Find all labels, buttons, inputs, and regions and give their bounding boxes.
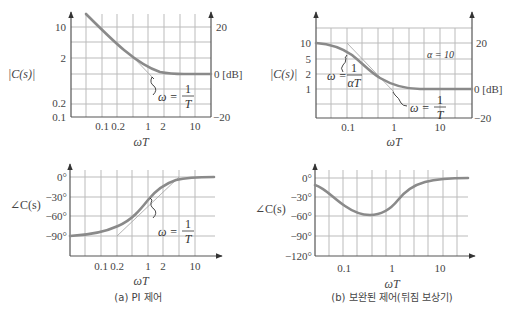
ytick: −120° xyxy=(285,250,312,262)
phase-curve xyxy=(70,177,214,236)
xtick: 0.2 xyxy=(111,120,125,132)
grid xyxy=(315,170,468,256)
svg-text:T: T xyxy=(437,108,445,122)
phase-ylabel: ∠C(s) xyxy=(255,202,286,216)
magnitude-ylabel: |C(s)| xyxy=(270,67,297,81)
annotation-leader xyxy=(151,77,156,95)
ytick-db: 20 xyxy=(216,21,228,33)
xtick: 1 xyxy=(389,262,395,274)
xtick: 2 xyxy=(160,120,166,132)
ytick: −60° xyxy=(45,210,67,222)
svg-text:1: 1 xyxy=(351,61,357,75)
xtick: 2 xyxy=(160,260,166,272)
xtick: 10 xyxy=(190,260,202,272)
xtick: 0.2 xyxy=(110,260,124,272)
ytick-db: −20 xyxy=(474,112,492,124)
ytick: −30° xyxy=(45,191,67,203)
panel-b-magnitude-plot xyxy=(316,12,472,118)
svg-text:T: T xyxy=(185,232,193,246)
ytick: −30° xyxy=(290,191,312,203)
ytick: 0.1 xyxy=(52,111,66,123)
svg-text:1: 1 xyxy=(437,93,443,107)
ytick-db: 20 xyxy=(476,37,488,49)
ytick: −60° xyxy=(290,210,312,222)
ytick-db: 0 [dB] xyxy=(214,68,242,80)
svg-text:1: 1 xyxy=(185,82,191,96)
ytick-db: −20 xyxy=(213,111,231,123)
xtick: 0.1 xyxy=(95,120,109,132)
magnitude-xlabel: ωT xyxy=(133,135,149,149)
annotation-corner-frequency-1: ω = 1 αT xyxy=(327,61,362,90)
svg-text:ω =: ω = xyxy=(158,90,178,104)
phase-ylabel: ∠C(s) xyxy=(10,198,41,212)
alpha-parameter: α = 10 xyxy=(427,49,454,60)
caption-b: (b) 보완된 제어(뒤짐 보상기) xyxy=(331,292,453,303)
xtick: 10 xyxy=(435,262,447,274)
panel-b-phase-plot xyxy=(315,164,475,256)
xtick: 0.1 xyxy=(337,262,351,274)
ytick: 2 xyxy=(306,68,312,80)
ytick: 2 xyxy=(61,52,67,64)
svg-text:αT: αT xyxy=(348,76,362,90)
figure-canvas: |C(s)| 10 2 0.2 0.1 20 0 [dB] −20 0.1 0.… xyxy=(0,0,508,318)
ytick: 10 xyxy=(55,21,67,33)
svg-text:ω =: ω = xyxy=(327,69,347,83)
xtick: 10 xyxy=(190,120,202,132)
svg-text:ω =: ω = xyxy=(158,225,178,239)
xtick: 1 xyxy=(145,120,151,132)
xtick: 0.1 xyxy=(341,121,355,133)
panel-a-phase-plot xyxy=(70,164,222,256)
annotation-leader xyxy=(150,198,156,218)
caption-a: (a) PI 제어 xyxy=(114,292,161,303)
ytick-db: 0 [dB] xyxy=(474,83,502,95)
annotation-corner-frequency: ω = 1 T xyxy=(158,82,194,111)
ytick: 10 xyxy=(300,37,312,49)
ytick: −90° xyxy=(290,230,312,242)
grid xyxy=(70,170,215,256)
ytick: 0° xyxy=(57,171,67,183)
ytick: −90° xyxy=(45,230,67,242)
svg-text:ω =: ω = xyxy=(410,101,430,115)
xtick: 1 xyxy=(145,260,151,272)
ytick: 0° xyxy=(302,172,312,184)
ytick: 5 xyxy=(306,53,312,65)
svg-text:1: 1 xyxy=(185,217,191,231)
ytick: 1 xyxy=(306,83,312,95)
magnitude-ylabel: |C(s)| xyxy=(8,67,35,81)
phase-xlabel: ωT xyxy=(384,277,400,291)
magnitude-xlabel: ωT xyxy=(386,135,402,149)
xtick: 1 xyxy=(391,121,397,133)
ytick: 0.2 xyxy=(52,97,66,109)
xtick: 0.1 xyxy=(94,260,108,272)
phase-xlabel: ωT xyxy=(133,274,149,288)
xtick: 10 xyxy=(435,121,447,133)
